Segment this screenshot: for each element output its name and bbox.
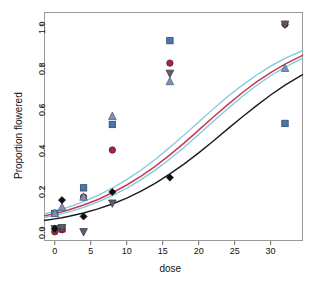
data-point-group-square-3 [109, 121, 115, 127]
data-point-group-square-2 [80, 185, 86, 191]
x-axis-title: dose [160, 263, 182, 274]
y-tick-label-5: 1.0 [37, 22, 47, 35]
data-point-group-up-triangle-1 [58, 203, 66, 210]
x-tick-label-6: 30 [262, 246, 280, 256]
y-tick-label-4: 0.8 [37, 63, 47, 76]
data-point-group-up-triangle-3 [109, 112, 117, 119]
data-point-group-down-triangle-2 [80, 229, 88, 236]
y-tick-label-2: 0.4 [37, 144, 47, 157]
x-tick-label-3: 15 [154, 246, 172, 256]
data-point-group-square-4 [167, 37, 173, 43]
chart-canvas [0, 0, 314, 288]
data-point-group-down-triangle-4 [166, 70, 174, 77]
data-point-group-circle-4 [167, 60, 173, 66]
data-point-group-up-triangle-4 [166, 77, 174, 84]
y-axis-title: Proportion flowered [13, 92, 24, 179]
data-point-group-diamond-1 [58, 197, 65, 204]
y-tick-label-3: 0.6 [37, 104, 47, 117]
x-tick-label-1: 5 [82, 246, 100, 256]
curve-fit-red [44, 55, 303, 216]
chart-root: 051015202530 0.00.20.40.60.81.0 dose Pro… [0, 0, 314, 288]
axis-ticks-group [40, 24, 271, 245]
x-tick-label-2: 10 [118, 246, 136, 256]
data-point-group-circle-3 [109, 147, 115, 153]
data-point-group-square-5 [282, 120, 288, 126]
y-tick-label-0: 0.0 [37, 226, 47, 239]
x-tick-label-4: 20 [190, 246, 208, 256]
x-tick-label-0: 0 [46, 246, 64, 256]
y-tick-label-1: 0.2 [37, 185, 47, 198]
data-point-group-down-triangle-3 [109, 200, 117, 207]
x-tick-label-5: 25 [226, 246, 244, 256]
